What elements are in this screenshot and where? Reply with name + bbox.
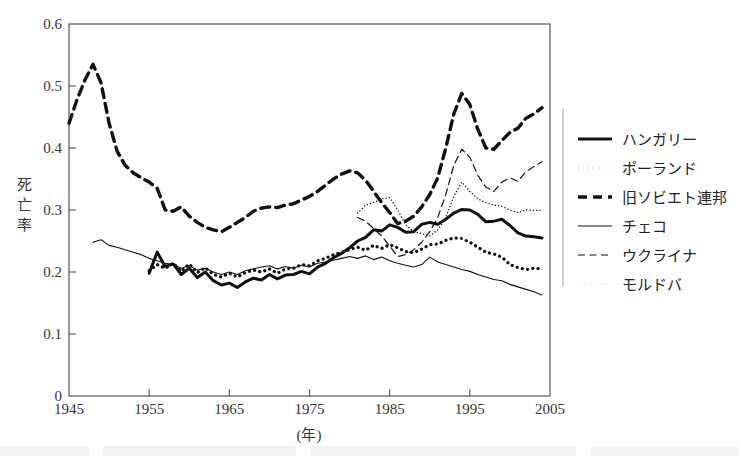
- y-tick-label: 0.2: [43, 264, 62, 280]
- y-axis-title-char: 率: [17, 216, 32, 234]
- y-axis-title: 死亡率: [17, 176, 32, 234]
- x-tick-label: 1955: [134, 401, 164, 417]
- y-tick-label: 0.3: [43, 202, 62, 218]
- axis-tick-marks: [69, 86, 470, 396]
- y-tick-label: 0.4: [43, 140, 62, 156]
- legend-item-label: モルドバ: [622, 276, 682, 294]
- legend-item-label: 旧ソビエト連邦: [622, 189, 727, 207]
- y-tick-label: 0.6: [43, 16, 62, 32]
- y-axis-title-char: 死: [17, 176, 32, 194]
- legend-item-label: チェコ: [622, 218, 667, 236]
- legend-item-label: ハンガリー: [622, 131, 697, 149]
- x-tick-label: 1995: [455, 401, 485, 417]
- page-edge-artifact: [0, 446, 739, 456]
- x-tick-label: 1965: [214, 401, 244, 417]
- x-tick-label: 1945: [54, 401, 84, 417]
- series-line: [69, 64, 542, 231]
- y-tick-label: 0.1: [43, 326, 62, 342]
- chart-figure: 00.10.20.30.40.50.6 19451955196519751985…: [0, 0, 739, 456]
- series-line: [358, 149, 542, 256]
- legend-item-label: ウクライナ: [622, 247, 697, 265]
- chart-svg: 00.10.20.30.40.50.6 19451955196519751985…: [0, 0, 739, 456]
- y-axis-title-char: 亡: [17, 196, 32, 214]
- legend-item-label: ポーランド: [622, 160, 697, 178]
- legend: ハンガリーポーランド旧ソビエト連邦チェコウクライナモルドバ: [578, 131, 727, 294]
- x-tick-label: 2005: [535, 401, 565, 417]
- x-tick-label: 1985: [375, 401, 405, 417]
- plot-frame: [69, 24, 550, 396]
- x-tick-label: 1975: [295, 401, 325, 417]
- y-tick-label: 0.5: [43, 78, 62, 94]
- x-axis-tick-labels: 1945195519651975198519952005: [54, 401, 565, 417]
- series-lines: [69, 64, 542, 295]
- x-axis-title: (年): [297, 427, 322, 444]
- y-axis-tick-labels: 00.10.20.30.40.50.6: [43, 16, 62, 404]
